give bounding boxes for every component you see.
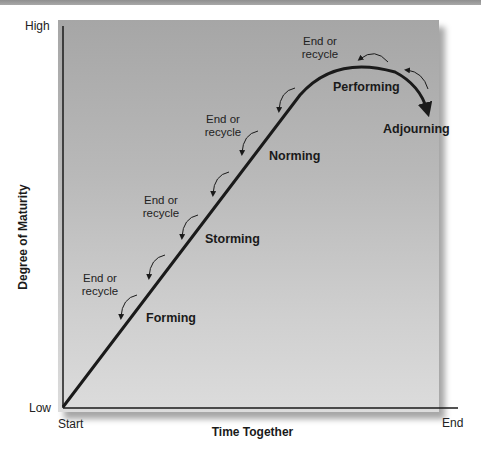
exit-label-forming: End or recycle	[70, 272, 130, 298]
exit-label-storming: End or recycle	[131, 194, 191, 220]
stage-storming: Storming	[205, 232, 260, 246]
exit-label-norming: End or recycle	[193, 113, 253, 139]
y-axis-title: Degree of Maturity	[16, 182, 30, 292]
stage-forming: Forming	[146, 311, 196, 325]
y-axis-high-label: High	[25, 19, 50, 33]
x-axis-title: Time Together	[0, 425, 481, 439]
exit-label-performing: End or recycle	[290, 35, 350, 61]
y-axis-low-label: Low	[29, 401, 51, 415]
stage-adjourning: Adjourning	[383, 122, 450, 136]
stage-performing: Performing	[333, 80, 400, 94]
stage-norming: Norming	[269, 149, 320, 163]
diagram-svg	[0, 0, 481, 451]
